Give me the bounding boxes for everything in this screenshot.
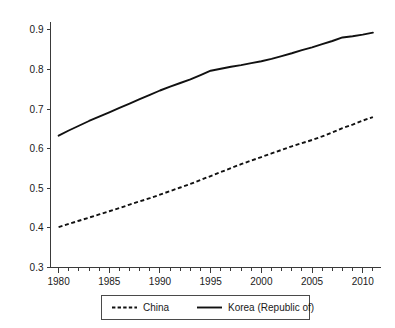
- chart-figure: 0.30.40.50.60.70.80.9 198019851990199520…: [0, 0, 395, 328]
- x-tick-label: 1985: [98, 276, 121, 287]
- chart-legend: China Korea (Republic of): [102, 296, 315, 320]
- x-axis: 1980198519901995200020052010: [47, 268, 381, 287]
- y-tick-label: 0.8: [30, 64, 44, 75]
- y-tick-label: 0.5: [30, 183, 44, 194]
- x-tick-label: 1980: [47, 276, 70, 287]
- line-chart: 0.30.40.50.60.70.80.9 198019851990199520…: [0, 0, 395, 328]
- y-tick-labels: 0.30.40.50.60.70.80.9: [30, 24, 44, 273]
- x-tick-label: 1990: [149, 276, 172, 287]
- y-tick-label: 0.6: [30, 143, 44, 154]
- y-tick-label: 0.4: [30, 222, 44, 233]
- y-tick-marks: [47, 30, 51, 268]
- y-tick-label: 0.9: [30, 24, 44, 35]
- x-tick-label: 2000: [250, 276, 273, 287]
- y-tick-label: 0.7: [30, 104, 44, 115]
- x-tick-label: 1995: [200, 276, 223, 287]
- legend-label-korea: Korea (Republic of): [228, 302, 314, 313]
- x-tick-labels: 1980198519901995200020052010: [47, 276, 374, 287]
- x-tick-label: 2010: [352, 276, 375, 287]
- x-major-tick-marks: [59, 268, 363, 273]
- legend-label-china: China: [143, 302, 170, 313]
- y-tick-label: 0.3: [30, 262, 44, 273]
- series-line-korea: [59, 33, 373, 136]
- data-series-group: [59, 33, 373, 227]
- x-tick-label: 2005: [301, 276, 324, 287]
- y-axis: 0.30.40.50.60.70.80.9: [30, 22, 51, 273]
- series-line-china: [59, 117, 373, 227]
